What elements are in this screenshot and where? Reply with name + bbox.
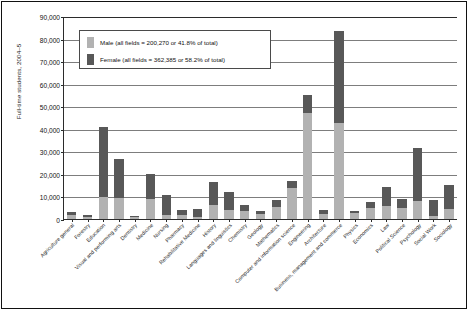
bar-segment-male — [99, 197, 108, 219]
chart-legend: Male (all fields = 200,270 or 41.8% of t… — [79, 30, 271, 69]
bar-group — [441, 17, 457, 219]
chart-figure: Full-time students, 2004–5 90,00080,0007… — [0, 0, 469, 311]
bar-segment-male — [413, 201, 422, 219]
bar-stack — [303, 95, 312, 219]
bar-segment-female — [114, 159, 123, 198]
bar-stack — [67, 212, 76, 219]
legend-item-male: Male (all fields = 200,270 or 41.8% of t… — [87, 37, 263, 48]
bar-segment-female — [193, 209, 202, 216]
bar-stack — [193, 209, 202, 219]
bar-group — [64, 17, 80, 219]
bar-segment-female — [413, 148, 422, 202]
y-axis-title: Full-time students, 2004–5 — [15, 12, 22, 152]
bar-segment-female — [146, 174, 155, 200]
bar-segment-male — [444, 209, 453, 219]
bar-stack — [240, 205, 249, 219]
bar-segment-male — [397, 208, 406, 219]
bar-group — [316, 17, 332, 219]
bar-stack — [224, 192, 233, 219]
y-axis-tick-label: 90,000 — [40, 14, 60, 21]
bar-segment-male — [114, 198, 123, 219]
bar-segment-male — [287, 188, 296, 219]
x-axis-label-slot: Economics — [363, 220, 379, 308]
bar-segment-female — [334, 31, 343, 124]
bar-group — [347, 17, 363, 219]
bar-segment-female — [397, 199, 406, 208]
bar-group — [378, 17, 394, 219]
bar-stack — [287, 181, 296, 219]
bar-stack — [146, 174, 155, 219]
bar-segment-female — [287, 181, 296, 188]
bar-segment-male — [382, 206, 391, 219]
y-axis-tick-label: 80,000 — [40, 36, 60, 43]
x-axis-labels: Agriculture generalForestryEducationVisu… — [63, 220, 457, 308]
y-axis-tick-label: 50,000 — [40, 104, 60, 111]
bar-stack — [256, 211, 265, 219]
bar-stack — [209, 182, 218, 219]
bar-segment-female — [99, 127, 108, 196]
x-axis-label-slot: Sociology — [441, 220, 457, 308]
bar-stack — [350, 211, 359, 219]
bar-stack — [334, 31, 343, 219]
legend-item-female: Female (all fields = 362,385 or 58.2% of… — [87, 54, 263, 65]
y-axis-tick-label: 30,000 — [40, 149, 60, 156]
legend-label-female: Female (all fields = 362,385 or 58.2% of… — [100, 56, 225, 63]
y-axis-tick-label: 0 — [56, 217, 60, 224]
bar-stack — [429, 200, 438, 219]
bar-stack — [366, 202, 375, 219]
bar-group — [410, 17, 426, 219]
bar-segment-female — [162, 195, 171, 215]
bar-segment-male — [146, 199, 155, 219]
y-axis-tick-label: 40,000 — [40, 126, 60, 133]
bar-segment-male — [240, 211, 249, 219]
bar-stack — [413, 148, 422, 219]
y-axis-tick-label: 20,000 — [40, 171, 60, 178]
y-axis-tick-label: 10,000 — [40, 194, 60, 201]
bar-group — [300, 17, 316, 219]
bar-segment-female — [444, 185, 453, 209]
legend-swatch-female — [87, 54, 94, 65]
bar-segment-male — [272, 207, 281, 219]
bar-segment-male — [224, 210, 233, 219]
bar-segment-female — [272, 200, 281, 207]
bar-stack — [177, 210, 186, 219]
y-axis-tick-label: 70,000 — [40, 59, 60, 66]
bar-segment-male — [303, 113, 312, 219]
bar-group — [363, 17, 379, 219]
bar-stack — [382, 187, 391, 219]
bar-group — [394, 17, 410, 219]
bar-stack — [444, 185, 453, 219]
x-axis-tick-label: Law — [379, 222, 390, 233]
bar-segment-male — [209, 205, 218, 219]
legend-swatch-male — [87, 37, 94, 48]
bar-stack — [114, 159, 123, 219]
bar-segment-female — [303, 95, 312, 113]
bar-segment-male — [366, 208, 375, 219]
bar-group — [331, 17, 347, 219]
y-axis-tick-label: 60,000 — [40, 81, 60, 88]
bar-group — [284, 17, 300, 219]
bar-stack — [162, 195, 171, 219]
bar-group — [426, 17, 442, 219]
bar-stack — [272, 200, 281, 219]
bar-stack — [397, 199, 406, 219]
bar-stack — [99, 127, 108, 219]
bar-segment-female — [209, 182, 218, 205]
legend-label-male: Male (all fields = 200,270 or 41.8% of t… — [100, 39, 218, 46]
bar-stack — [319, 210, 328, 219]
bar-segment-female — [429, 200, 438, 216]
bar-segment-male — [334, 123, 343, 219]
bar-segment-female — [382, 187, 391, 206]
bar-segment-female — [224, 192, 233, 210]
